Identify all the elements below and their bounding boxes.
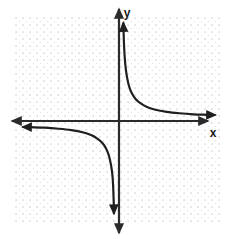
dotted-grid — [16, 18, 220, 222]
coordinate-axes — [12, 9, 208, 233]
x-axis-label: x — [210, 126, 217, 140]
branch-quadrant-1 — [123, 23, 215, 116]
hyperbola-graph-figure: x y — [0, 0, 235, 239]
y-axis-label: y — [124, 6, 131, 20]
graph-canvas: x y — [0, 0, 235, 239]
branch-quadrant-3 — [22, 127, 114, 214]
